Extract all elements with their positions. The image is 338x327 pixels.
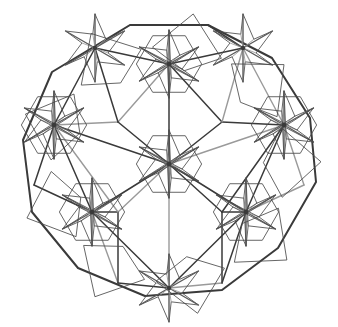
rosette-hub xyxy=(167,162,171,166)
rosette-hub xyxy=(244,210,248,214)
rosette-hub xyxy=(282,123,286,127)
rosette-hub xyxy=(52,123,56,127)
rosette-hub xyxy=(167,286,171,290)
rosette-hub xyxy=(241,46,245,50)
rosette-hub xyxy=(90,210,94,214)
rosette-hub xyxy=(167,62,171,66)
geometric-tessellation-figure: Geometric star-rosette tessellation xyxy=(0,0,338,327)
rosette-hub xyxy=(93,46,97,50)
